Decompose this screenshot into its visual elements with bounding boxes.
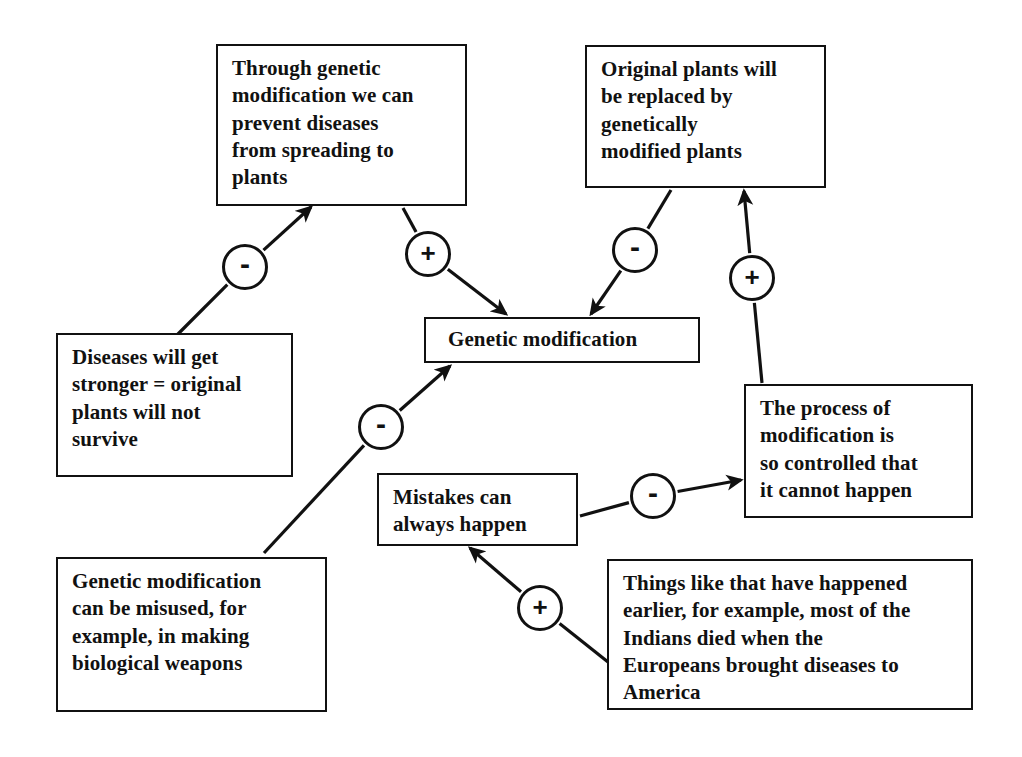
edge-head bbox=[448, 269, 506, 314]
edge-tail bbox=[580, 503, 629, 516]
edge-tail bbox=[176, 285, 227, 336]
diagram-canvas: Through genetic modification we can prev… bbox=[0, 0, 1022, 757]
edge-tail bbox=[754, 303, 762, 383]
node-mistakes-happen[interactable]: Mistakes can always happen bbox=[377, 473, 578, 546]
polarity-marker-diseases-stronger-to-prevent-diseases[interactable]: - bbox=[222, 244, 268, 290]
node-happened-earlier[interactable]: Things like that have happened earlier, … bbox=[607, 559, 973, 710]
edge-head bbox=[591, 271, 621, 314]
edge-head bbox=[678, 480, 741, 492]
node-process-controlled[interactable]: The process of modification is so contro… bbox=[744, 384, 973, 518]
node-misused-weapons[interactable]: Genetic modification can be misused, for… bbox=[56, 557, 327, 712]
edge-head bbox=[470, 548, 521, 592]
node-prevent-diseases[interactable]: Through genetic modification we can prev… bbox=[216, 44, 467, 206]
edge-tail bbox=[648, 190, 671, 229]
polarity-marker-process-controlled-to-original-plants[interactable]: + bbox=[729, 255, 775, 301]
polarity-marker-mistakes-to-process-controlled[interactable]: - bbox=[630, 473, 676, 519]
edge-tail bbox=[560, 624, 608, 662]
polarity-marker-happened-earlier-to-mistakes[interactable]: + bbox=[517, 585, 563, 631]
node-original-plants-replaced[interactable]: Original plants will be replaced by gene… bbox=[585, 45, 826, 188]
edge-head bbox=[400, 366, 450, 410]
node-genetic-modification[interactable]: Genetic modification bbox=[424, 317, 700, 363]
edge-head bbox=[744, 191, 750, 253]
edge-tail bbox=[403, 208, 416, 232]
polarity-marker-original-plants-to-genetic-modification[interactable]: - bbox=[612, 227, 658, 273]
polarity-marker-misused-weapons-to-genetic-modification[interactable]: - bbox=[358, 404, 404, 450]
polarity-marker-prevent-diseases-to-genetic-modification[interactable]: + bbox=[405, 231, 451, 277]
edge-head bbox=[263, 207, 311, 250]
node-diseases-stronger[interactable]: Diseases will get stronger = original pl… bbox=[56, 333, 293, 477]
